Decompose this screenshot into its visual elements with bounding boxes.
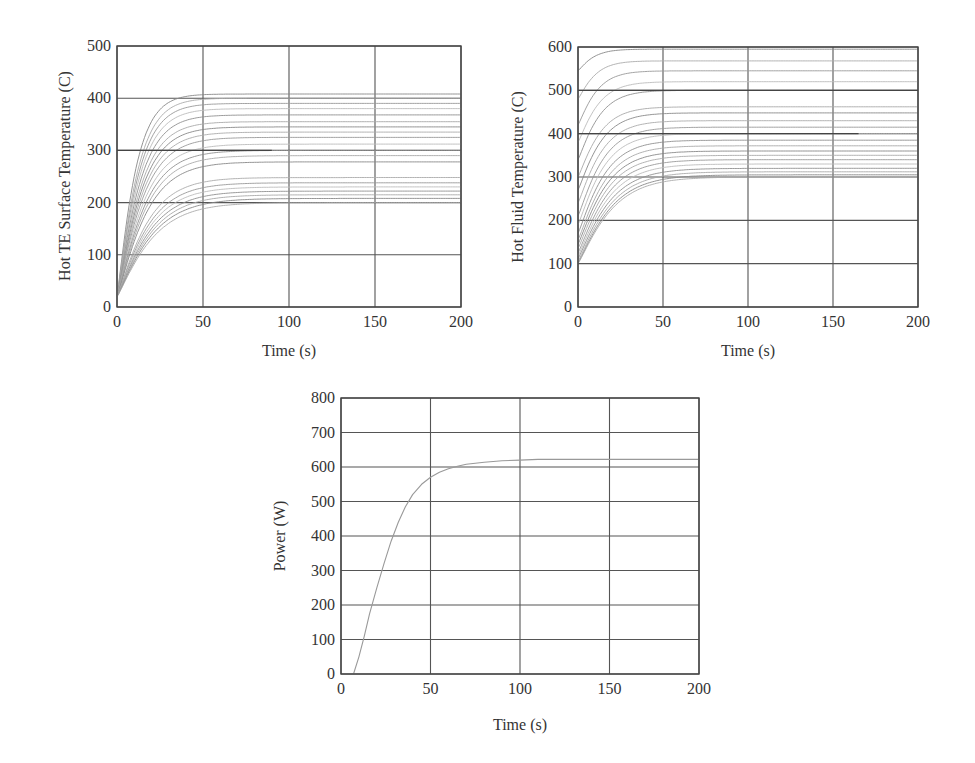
grid (341, 398, 699, 674)
x-tick-label: 200 (687, 680, 711, 697)
y-tick-label: 0 (327, 665, 335, 682)
y-tick-label: 500 (87, 37, 111, 54)
power-chart: 0501001502000100200300400500600700800Tim… (250, 370, 730, 750)
y-tick-label: 600 (311, 458, 335, 475)
x-tick-label: 50 (195, 313, 211, 330)
x-tick-label: 0 (574, 313, 582, 330)
y-tick-label: 600 (548, 38, 572, 55)
y-tick-label: 200 (548, 211, 572, 228)
y-tick-label: 100 (548, 255, 572, 272)
x-axis-label: Time (s) (721, 342, 775, 360)
y-tick-label: 0 (103, 298, 111, 315)
x-tick-label: 200 (449, 313, 473, 330)
y-tick-label: 500 (311, 493, 335, 510)
y-tick-label: 400 (87, 89, 111, 106)
x-tick-label: 100 (277, 313, 301, 330)
y-tick-label: 300 (548, 168, 572, 185)
tick-labels: 0501001502000100200300400500600700800 (311, 389, 711, 697)
tick-labels: 0501001502000100200300400500 (87, 37, 473, 330)
x-tick-label: 150 (363, 313, 387, 330)
x-tick-label: 100 (508, 680, 532, 697)
y-tick-label: 100 (87, 246, 111, 263)
y-axis-label: Hot TE Surface Temperature (C) (56, 71, 74, 281)
x-axis-label: Time (s) (262, 342, 316, 360)
x-tick-label: 150 (821, 313, 845, 330)
x-axis-label: Time (s) (493, 716, 547, 734)
y-tick-label: 500 (548, 81, 572, 98)
y-tick-label: 800 (311, 389, 335, 406)
series-group (354, 459, 700, 674)
x-tick-label: 50 (655, 313, 671, 330)
x-tick-label: 0 (337, 680, 345, 697)
x-tick-label: 150 (598, 680, 622, 697)
y-axis-label: Power (W) (271, 501, 289, 572)
x-tick-label: 50 (423, 680, 439, 697)
y-tick-label: 300 (87, 141, 111, 158)
y-axis-label: Hot Fluid Temperature (C) (509, 91, 527, 262)
hot-te-surface-chart: 0501001502000100200300400500Time (s)Hot … (0, 0, 487, 370)
y-tick-label: 0 (564, 298, 572, 315)
y-tick-label: 200 (311, 596, 335, 613)
y-tick-label: 400 (311, 527, 335, 544)
x-tick-label: 100 (736, 313, 760, 330)
x-tick-label: 0 (113, 313, 121, 330)
y-tick-label: 700 (311, 424, 335, 441)
y-tick-label: 300 (311, 562, 335, 579)
x-tick-label: 200 (906, 313, 930, 330)
y-tick-label: 100 (311, 631, 335, 648)
hot-fluid-chart: 0501001502000100200300400500600Time (s)H… (487, 0, 975, 370)
y-tick-label: 400 (548, 125, 572, 142)
y-tick-label: 200 (87, 194, 111, 211)
power-line (354, 459, 700, 674)
